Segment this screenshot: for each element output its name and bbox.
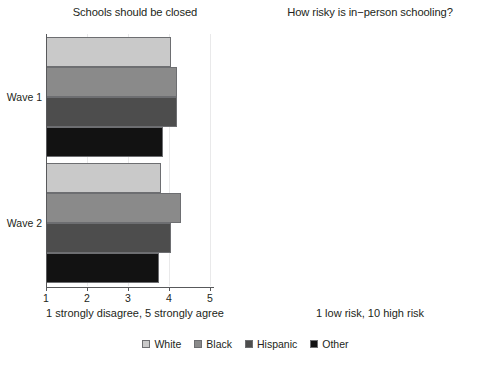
panel-how-risky-is-in-person-schooling: How risky is in−person schooling? 1 low … <box>245 0 491 330</box>
legend-item-black[interactable]: Black <box>194 338 232 350</box>
legend-label: Other <box>322 338 348 350</box>
bar-hispanic-wave-1 <box>46 97 177 127</box>
legend-label: Black <box>206 338 232 350</box>
x-axis-tick <box>46 287 47 291</box>
gridline <box>210 34 211 286</box>
panel-schools-should-be-closed: Schools should be closed 1 strongly disa… <box>0 0 246 330</box>
x-axis-line <box>46 287 214 288</box>
bar-black-wave-1 <box>46 67 177 97</box>
legend-item-other[interactable]: Other <box>310 338 348 350</box>
x-axis-tick-label: 2 <box>77 292 97 304</box>
group-label-wave-2: Wave 2 <box>7 217 42 229</box>
legend-label: White <box>154 338 181 350</box>
legend-label: Hispanic <box>257 338 297 350</box>
x-axis-tick <box>169 287 170 291</box>
x-axis-tick <box>128 287 129 291</box>
plot-area <box>46 34 210 286</box>
legend-swatch-icon <box>194 340 202 348</box>
bar-black-wave-2 <box>46 193 181 223</box>
figure: Schools should be closed 1 strongly disa… <box>0 0 491 366</box>
legend: WhiteBlackHispanicOther <box>0 338 491 350</box>
legend-swatch-icon <box>310 340 318 348</box>
x-axis-label: 1 strongly disagree, 5 strongly agree <box>0 307 246 319</box>
panel-title: Schools should be closed <box>0 6 246 18</box>
y-axis-line <box>46 34 47 287</box>
panel-title: How risky is in−person schooling? <box>245 6 491 18</box>
x-axis-tick-label: 4 <box>159 292 179 304</box>
x-axis-tick-label: 3 <box>118 292 138 304</box>
bar-white-wave-1 <box>46 37 171 67</box>
x-axis-tick <box>210 287 211 291</box>
group-label-wave-1: Wave 1 <box>7 91 42 103</box>
bar-other-wave-1 <box>46 127 163 157</box>
x-axis-tick <box>87 287 88 291</box>
bar-other-wave-2 <box>46 253 159 283</box>
legend-swatch-icon <box>245 340 253 348</box>
bar-white-wave-2 <box>46 163 161 193</box>
x-axis-tick-label: 5 <box>200 292 220 304</box>
x-axis-tick-label: 1 <box>36 292 56 304</box>
legend-item-hispanic[interactable]: Hispanic <box>245 338 297 350</box>
x-axis-label: 1 low risk, 10 high risk <box>245 307 491 319</box>
legend-swatch-icon <box>142 340 150 348</box>
bar-hispanic-wave-2 <box>46 223 171 253</box>
legend-item-white[interactable]: White <box>142 338 181 350</box>
